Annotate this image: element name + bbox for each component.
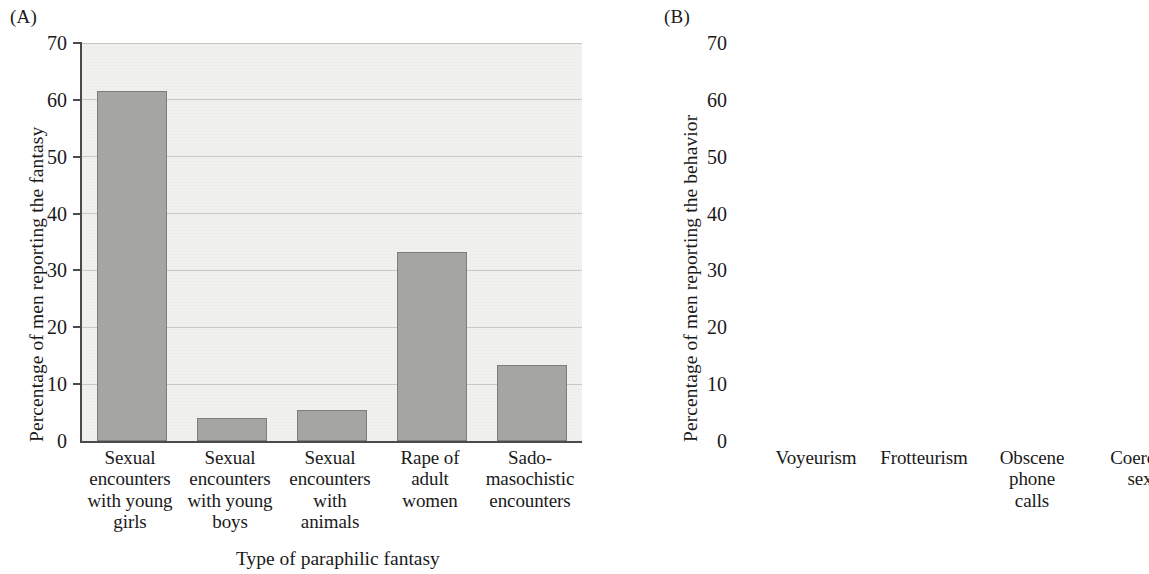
y-axis-tick-label: 0 — [25, 431, 67, 451]
panel-a-y-axis-title: Percentage of men reporting the fantasy — [26, 127, 48, 442]
panel-a: (A) Percentage of men reporting the fant… — [0, 0, 640, 574]
y-axis-tick-label: 70 — [25, 33, 67, 53]
gridline — [82, 43, 582, 44]
x-axis-category-label: Sexual encounters with animals — [276, 447, 384, 532]
y-axis-tick — [73, 269, 82, 271]
y-axis-tick — [73, 156, 82, 158]
panel-b: (B) Percentage of men reporting the beha… — [650, 0, 1149, 574]
y-axis-tick — [73, 99, 82, 101]
y-axis-tick — [73, 42, 82, 44]
panel-b-letter: (B) — [664, 6, 690, 28]
y-axis-tick-label: 30 — [25, 260, 67, 280]
bar — [297, 410, 367, 441]
y-axis-tick — [73, 213, 82, 215]
y-axis-tick-label: 60 — [25, 90, 67, 110]
bar — [197, 418, 267, 441]
x-axis-category-label: Obscene phone calls — [976, 447, 1088, 511]
x-axis-category-label: Sado- masochistic encounters — [476, 447, 584, 511]
panel-a-letter: (A) — [10, 6, 37, 28]
x-axis-category-label: Sexual encounters with young boys — [176, 447, 284, 532]
y-axis-tick-label: 0 — [685, 431, 727, 451]
x-axis-category-label: Voyeurism — [760, 447, 872, 468]
bar — [397, 252, 467, 441]
x-axis-category-label: Frotteurism — [868, 447, 980, 468]
x-axis-category-label: Coerciv sex — [1084, 447, 1149, 490]
y-axis-tick-label: 50 — [685, 147, 727, 167]
panel-a-plot-area — [80, 43, 582, 443]
y-axis-tick — [73, 326, 82, 328]
y-axis-tick-label: 40 — [685, 204, 727, 224]
y-axis-tick-label: 70 — [685, 33, 727, 53]
y-axis-tick — [73, 383, 82, 385]
x-axis-category-label: Sexual encounters with young girls — [76, 447, 184, 532]
y-axis-tick-label: 50 — [25, 147, 67, 167]
x-axis-category-label: Rape of adult women — [376, 447, 484, 511]
y-axis-tick-label: 10 — [685, 374, 727, 394]
bar — [97, 91, 167, 441]
y-axis-tick-label: 20 — [25, 317, 67, 337]
y-axis-tick-label: 60 — [685, 90, 727, 110]
bar — [497, 365, 567, 441]
y-axis-tick-label: 30 — [685, 260, 727, 280]
panel-a-x-axis-title: Type of paraphilic fantasy — [236, 548, 440, 570]
y-axis-tick-label: 20 — [685, 317, 727, 337]
y-axis-tick-label: 10 — [25, 374, 67, 394]
y-axis-tick-label: 40 — [25, 204, 67, 224]
